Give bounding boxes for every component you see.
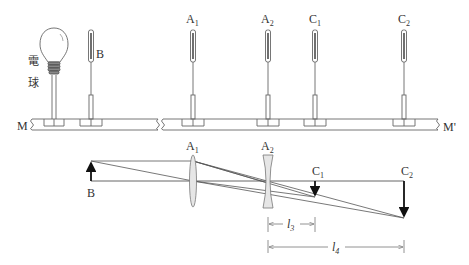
bulb-base-saddle (44, 119, 64, 126)
bulb-screw-base (48, 62, 60, 74)
holder-label-A2: A2 (261, 12, 274, 28)
lens-label-a2: A2 (261, 139, 274, 155)
ray-diagram (91, 155, 404, 253)
saddle (80, 119, 102, 126)
rail-label-right: M' (443, 120, 456, 134)
lens-label-a1: A1 (186, 139, 199, 155)
rail-label-left: M (17, 119, 28, 133)
holder-label-B: B (96, 47, 104, 61)
dimension-label-l4: l4 (332, 240, 339, 256)
holder-A2 (257, 30, 279, 126)
optical-bench (31, 119, 440, 130)
holder-label-C2: C2 (398, 12, 410, 28)
optics-diagram: M M' 電 球 B A1 A2 (0, 0, 469, 265)
holder-B (80, 30, 102, 126)
image-label-c2: C2 (401, 164, 413, 180)
ray-a1-to-c2-upper (193, 161, 404, 218)
bulb-label-1: 電 (28, 55, 39, 68)
post (89, 95, 93, 119)
lens-a1-convex (190, 155, 197, 207)
bulb-stem (52, 75, 56, 119)
rail-break-left-end (31, 119, 34, 130)
dimension-label-l3: l3 (287, 217, 294, 233)
holder-C2 (393, 30, 415, 126)
object-label-b: B (87, 186, 95, 200)
ray-a1-chief-c2 (193, 181, 404, 218)
rail-break-mid-a (157, 119, 160, 130)
ray-a1-mid (193, 161, 268, 183)
rail-break-right-end (437, 119, 440, 130)
lens-a2-concave (263, 155, 273, 208)
ray-chief-1 (91, 161, 193, 181)
bulb-glass (40, 28, 68, 62)
holder-A1 (182, 30, 204, 126)
image-label-c1: C1 (312, 164, 324, 180)
holder-label-A1: A1 (186, 12, 199, 28)
bulb-label-2: 球 (28, 76, 39, 90)
rail-left-segment (32, 119, 158, 130)
holder-C1 (304, 30, 326, 126)
light-bulb (40, 28, 68, 126)
holder-label-C1: C1 (309, 12, 321, 28)
rail-break-mid-b (162, 119, 165, 130)
